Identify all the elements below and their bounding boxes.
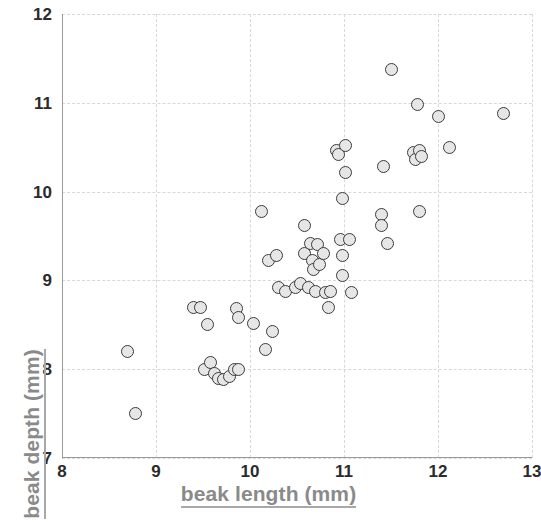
data-point bbox=[385, 63, 398, 76]
y-tick-label: 7 bbox=[43, 450, 52, 467]
data-point bbox=[497, 107, 510, 120]
data-point bbox=[432, 110, 445, 123]
x-tick-label: 11 bbox=[335, 463, 353, 480]
data-point bbox=[129, 407, 142, 420]
gridline-vertical bbox=[250, 14, 251, 458]
gridline-vertical bbox=[532, 14, 533, 458]
data-point bbox=[324, 285, 337, 298]
data-point bbox=[317, 247, 330, 260]
data-point bbox=[201, 318, 214, 331]
y-tick-label: 8 bbox=[43, 361, 52, 378]
gridline-horizontal bbox=[62, 103, 532, 104]
x-tick-label: 13 bbox=[523, 463, 541, 480]
data-point bbox=[411, 98, 424, 111]
y-axis-line bbox=[62, 14, 63, 458]
gridline-horizontal bbox=[62, 458, 532, 459]
data-point bbox=[270, 249, 283, 262]
data-point bbox=[298, 219, 311, 232]
y-axis-tick-labels: 789101112 bbox=[0, 14, 52, 458]
x-tick-label: 10 bbox=[241, 463, 260, 480]
x-tick-label: 12 bbox=[429, 463, 448, 480]
data-point bbox=[259, 343, 272, 356]
data-point bbox=[343, 233, 356, 246]
x-tick-label: 9 bbox=[151, 463, 160, 480]
x-axis-line bbox=[62, 457, 532, 458]
data-point bbox=[336, 269, 349, 282]
y-tick-label: 11 bbox=[34, 94, 52, 111]
gridline-vertical bbox=[438, 14, 439, 458]
data-point bbox=[413, 205, 426, 218]
data-point bbox=[415, 150, 428, 163]
gridline-horizontal bbox=[62, 192, 532, 193]
data-point bbox=[255, 205, 268, 218]
data-point bbox=[232, 311, 245, 324]
data-point bbox=[375, 219, 388, 232]
data-point bbox=[247, 317, 260, 330]
x-axis-title: beak length (mm) bbox=[0, 482, 537, 506]
x-tick-label: 8 bbox=[57, 463, 66, 480]
data-point bbox=[443, 141, 456, 154]
data-point bbox=[377, 160, 390, 173]
data-point bbox=[194, 301, 207, 314]
data-point bbox=[232, 363, 245, 376]
y-tick-label: 9 bbox=[43, 272, 52, 289]
data-point bbox=[339, 139, 352, 152]
data-point bbox=[339, 166, 352, 179]
data-point bbox=[336, 249, 349, 262]
y-tick-label: 10 bbox=[33, 183, 52, 200]
data-point bbox=[336, 192, 349, 205]
plot-area bbox=[62, 14, 532, 458]
gridline-vertical bbox=[156, 14, 157, 458]
x-axis-title-text: beak length (mm) bbox=[181, 482, 356, 508]
data-point bbox=[345, 286, 358, 299]
data-point bbox=[381, 237, 394, 250]
gridline-horizontal bbox=[62, 14, 532, 15]
data-point bbox=[266, 325, 279, 338]
gridline-horizontal bbox=[62, 369, 532, 370]
data-point bbox=[322, 301, 335, 314]
data-point bbox=[121, 345, 134, 358]
y-tick-label: 12 bbox=[33, 6, 52, 23]
